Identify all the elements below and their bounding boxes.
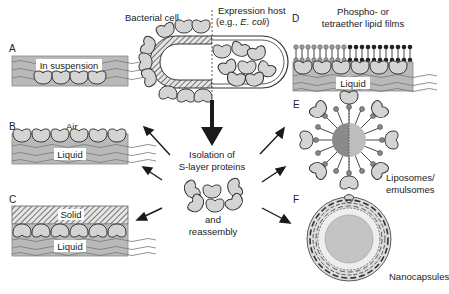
lipid-films-title: Phospho- or [337,6,389,17]
panel-c-liquid-label: Liquid [57,241,82,252]
panel-d: D Phospho- or tetraether lipid films Liq… [292,6,437,92]
center-process: Isolation of S-layer proteins and reasse… [137,100,290,237]
panel-f-letter: F [293,194,299,205]
bacterial-cell-label: Bacterial cell [125,12,179,23]
down-arrow [201,100,223,146]
panel-e: E Liposomes/ emulsomes [293,91,435,195]
lipid-row [294,45,413,63]
isolation-label: Isolation of [189,149,235,160]
expression-host-example: (e.g., E. coli) [216,16,269,27]
isolation-label-2: S-layer proteins [179,161,246,172]
panel-d-letter: D [292,13,299,24]
and-label: and [205,214,221,225]
nanocapsules-label: Nanocapsules [389,271,449,282]
panel-b-liquid-label: Liquid [57,149,82,160]
liposomes-label: Liposomes/ [386,172,435,183]
emulsomes-label: emulsomes [386,184,435,195]
panel-c: C Solid Liquid [9,194,156,256]
core-light [349,123,366,157]
panel-e-letter: E [293,99,300,110]
panel-b: B Air Liquid [9,121,156,164]
expression-host-label: Expression host [218,5,286,16]
panel-f: F Nanocapsules [293,194,449,282]
nanocapsule-core [325,215,373,263]
core-dark [332,123,349,157]
s-layer-diagram: A In suspension B Air Liquid C Solid Liq… [0,0,449,294]
cell-illustration: Bacterial cell Expression host (e.g., E.… [125,5,288,102]
panel-a-letter: A [9,43,16,54]
panel-c-letter: C [9,194,16,205]
solid-label: Solid [60,209,81,220]
lipid-films-title-2: tetraether lipid films [322,18,405,29]
panel-a: A In suspension [9,43,156,86]
panel-d-liquid-label: Liquid [340,78,365,89]
reassembly-label: reassembly [189,226,238,237]
panel-a-label: In suspension [40,60,99,71]
